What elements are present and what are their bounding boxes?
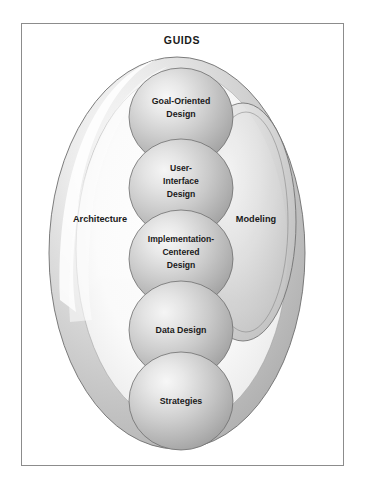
sphere-stack: Goal-Oriented Design User- Interface Des… (129, 68, 233, 450)
sphere-implementation-centered-design-line-1: Centered (162, 247, 199, 257)
sphere-data-design-line-0: Data Design (156, 325, 207, 335)
sphere-strategies-line-0: Strategies (160, 396, 203, 406)
label-architecture: Architecture (73, 214, 127, 224)
diagram-figure: GUIDS Goal-Oriented Design (0, 0, 365, 490)
sphere-goal-oriented-design-line-0: Goal-Oriented (152, 96, 211, 106)
figure-title: GUIDS (164, 34, 200, 46)
sphere-implementation-centered-design-line-2: Design (167, 260, 196, 270)
sphere-user-interface-design-line-2: Design (167, 189, 196, 199)
sphere-user-interface-design-line-0: User- (170, 163, 192, 173)
sphere-strategies: Strategies (129, 352, 233, 450)
label-modeling: Modeling (236, 214, 276, 224)
sphere-user-interface-design-line-1: Interface (163, 176, 199, 186)
sphere-goal-oriented-design-line-1: Design (166, 109, 195, 119)
sphere-implementation-centered-design-line-0: Implementation- (148, 234, 215, 244)
guids-venn-diagram: GUIDS Goal-Oriented Design (0, 0, 365, 490)
